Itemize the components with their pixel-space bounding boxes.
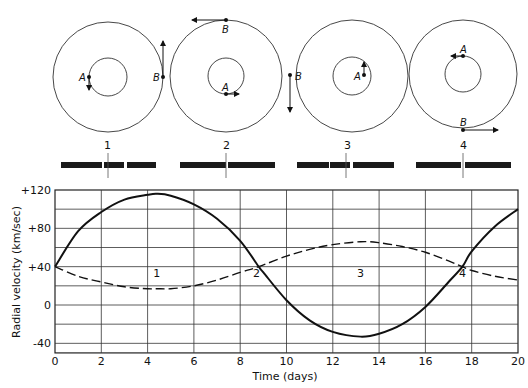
x-tick-label: 16: [418, 355, 432, 368]
phase-annotation: 1: [153, 267, 160, 280]
orbit-diagram-1: A B 1: [53, 22, 165, 152]
y-tick-label: +80: [28, 222, 51, 235]
star-b-label: B: [153, 72, 160, 83]
x-tick-label: 14: [372, 355, 386, 368]
diagram-number: 2: [223, 139, 230, 152]
x-tick-label: 20: [511, 355, 525, 368]
star-a-label: A: [459, 44, 467, 55]
phase-annotation: 3: [357, 267, 364, 280]
orbit-diagram-3: A B 3: [288, 20, 408, 152]
diagram-number: 4: [460, 139, 467, 152]
y-tick-label: +40: [28, 261, 51, 274]
x-tick-label: 0: [52, 355, 59, 368]
x-tick-label: 2: [98, 355, 105, 368]
diagram-number: 3: [344, 139, 351, 152]
x-tick-label: 4: [144, 355, 151, 368]
star-b-label: B: [460, 117, 467, 128]
star-a-label: A: [221, 82, 229, 93]
x-axis-label: Time (days): [252, 370, 318, 383]
x-tick-label: 12: [326, 355, 340, 368]
radial-velocity-chart: 02468101214161820+120+80+400-401234: [21, 184, 525, 368]
phase-annotation: 4: [459, 267, 466, 280]
x-tick-label: 6: [190, 355, 197, 368]
spectrum-1: [61, 153, 156, 178]
star-a-label: A: [353, 71, 361, 82]
orbit-diagram-2: A B 2: [170, 18, 282, 152]
star-b-label: B: [295, 71, 302, 82]
y-axis-label: Radial velocity (km/sec): [10, 206, 23, 338]
y-tick-label: -40: [33, 337, 51, 350]
spectrum-4: [416, 153, 511, 178]
diagram-number: 1: [104, 139, 111, 152]
spectrum-2: [180, 153, 275, 178]
binary-star-figure: A B 1 A B 2 A B 3 A B 4: [0, 0, 528, 388]
star-a-label: A: [78, 72, 86, 83]
star-b-label: B: [222, 24, 229, 35]
phase-annotation: 2: [253, 267, 260, 280]
y-tick-label: 0: [44, 299, 51, 312]
spectral-lines: [61, 153, 511, 178]
x-tick-label: 8: [237, 355, 244, 368]
x-tick-label: 18: [465, 355, 479, 368]
orbit-diagram-4: A B 4: [409, 20, 517, 152]
spectrum-3: [297, 153, 394, 178]
y-tick-label: +120: [21, 184, 51, 197]
x-tick-label: 10: [280, 355, 294, 368]
